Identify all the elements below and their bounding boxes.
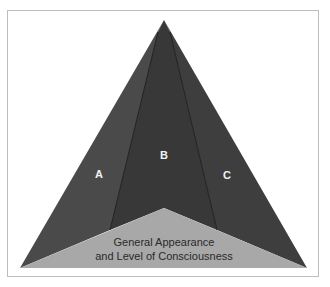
label-a: A <box>95 168 103 180</box>
pyramid-diagram: A B C General Appearance and Level of Co… <box>0 0 330 287</box>
base-caption-line2: and Level of Consciousness <box>95 250 233 262</box>
label-b: B <box>160 149 168 161</box>
diagram-canvas: A B C General Appearance and Level of Co… <box>0 0 330 287</box>
label-c: C <box>223 169 231 181</box>
base-caption-line1: General Appearance <box>114 236 215 248</box>
